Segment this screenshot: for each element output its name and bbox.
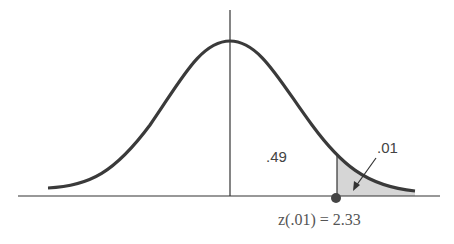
tail-area-label: .01 [377, 139, 398, 156]
normal-distribution-diagram: .49 .01 z(.01) = 2.33 [0, 0, 454, 244]
critical-value-label: z(.01) = 2.33 [278, 211, 361, 229]
normal-curve [48, 41, 415, 191]
critical-point [331, 193, 341, 203]
center-area-label: .49 [266, 148, 287, 165]
